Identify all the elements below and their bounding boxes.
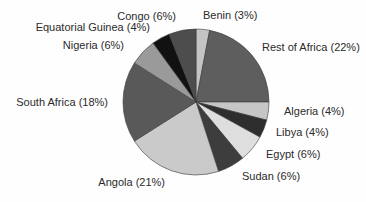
- slice-label-equatorial-guinea: Equatorial Guinea (4%): [36, 22, 150, 33]
- slice-label-south-africa: South Africa (18%): [16, 97, 108, 108]
- slice-label-algeria: Algeria (4%): [284, 106, 345, 117]
- slice-label-libya: Libya (4%): [276, 127, 329, 138]
- slice-label-rest-of-africa: Rest of Africa (22%): [262, 42, 360, 53]
- slice-label-congo: Congo (6%): [117, 11, 176, 22]
- slice-label-sudan: Sudan (6%): [242, 171, 300, 182]
- slice-label-benin: Benin (3%): [203, 10, 257, 21]
- slice-label-nigeria: Nigeria (6%): [63, 40, 124, 51]
- slice-label-angola: Angola (21%): [98, 177, 165, 188]
- pie-chart-figure: Benin (3%) Rest of Africa (22%) Algeria …: [0, 0, 366, 202]
- slice-label-egypt: Egypt (6%): [266, 149, 320, 160]
